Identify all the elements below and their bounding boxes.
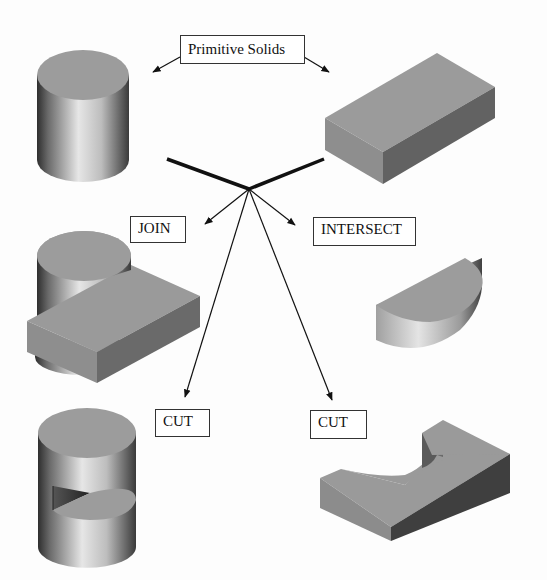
arrow-join <box>205 189 249 224</box>
intersect-result-solid <box>376 258 483 348</box>
arrow-to-cylinder <box>153 57 180 72</box>
label-cut-left: CUT <box>155 409 210 437</box>
boolean-operations-diagram: Primitive Solids JOIN INTERSECT CUT CUT <box>0 0 547 580</box>
arrow-cut-left <box>185 189 249 397</box>
bold-line-right <box>249 159 324 189</box>
label-join: JOIN <box>130 216 186 243</box>
label-primitive-solids: Primitive Solids <box>180 35 305 64</box>
label-cut-right: CUT <box>310 410 367 439</box>
primitive-box <box>325 53 495 184</box>
primitive-cylinder <box>37 50 129 182</box>
arrow-to-box <box>304 57 329 72</box>
diagram-canvas <box>0 0 547 580</box>
bold-line-left <box>167 159 249 189</box>
label-intersect: INTERSECT <box>313 217 416 246</box>
cut-cylinder-result <box>38 408 136 568</box>
